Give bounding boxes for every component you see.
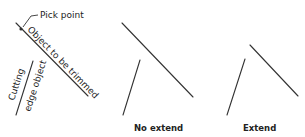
extend-long-line (250, 45, 298, 96)
middle-panel: No extend (122, 23, 193, 133)
object-to-be-trimmed-line (16, 23, 88, 96)
pick-point-label: Pick point (40, 10, 84, 20)
no-extend-short-line (123, 60, 140, 115)
trim-extend-diagram: Pick point Object to be trimmed Cutting … (0, 0, 305, 137)
right-panel: Extend (227, 45, 298, 133)
edge-object-label: edge object (22, 59, 48, 113)
extend-short-line (227, 59, 245, 115)
extend-caption: Extend (243, 123, 276, 133)
pick-point-marker (19, 27, 22, 30)
no-extend-caption: No extend (134, 123, 183, 133)
no-extend-long-line (122, 23, 193, 97)
cutting-label: Cutting (6, 67, 26, 101)
left-panel: Pick point Object to be trimmed Cutting … (6, 10, 100, 115)
